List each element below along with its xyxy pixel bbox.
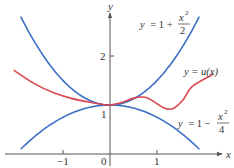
lower-label-eq: = 1 − (188, 118, 210, 129)
x-tick-label-neg1: −1 (57, 155, 69, 167)
lower-curve-label: y = 1 − x 2 4 (177, 108, 229, 135)
upper-curve-label: y = 1 + x 2 2 (139, 9, 190, 36)
y-tick-label-2: 2 (100, 50, 106, 62)
upper-label-exponent: 2 (185, 9, 189, 17)
y-axis-label: y (107, 0, 113, 12)
upper-label-eq: = 1 + (150, 19, 172, 30)
svg-text:y = u(x): y = u(x) (183, 66, 218, 78)
upper-label-y: y (139, 19, 145, 30)
curves (14, 17, 214, 150)
svg-text:y = 1 −: y = 1 − (177, 118, 211, 129)
svg-text:y = 1 +: y = 1 + (139, 19, 173, 30)
squeeze-theorem-figure: −1 0 1 2 1 y x y = 1 + x 2 2 (0, 0, 234, 168)
u-label-fn: u(x) (201, 66, 218, 78)
lower-label-exponent: 2 (224, 108, 228, 116)
u-label-prefix: y = (183, 66, 201, 77)
lower-label-numerator: x (217, 111, 223, 122)
lower-label-y: y (177, 118, 183, 129)
x-axis-label: x (225, 148, 231, 160)
x-tick-label-0: 0 (101, 155, 107, 167)
y-tick-label-1: 1 (101, 108, 107, 120)
upper-label-numerator: x (178, 12, 184, 23)
lower-label-denominator: 4 (219, 124, 225, 135)
upper-label-denominator: 2 (180, 25, 185, 36)
x-tick-label-1: 1 (154, 155, 160, 167)
u-curve-label: y = u(x) (183, 66, 218, 78)
